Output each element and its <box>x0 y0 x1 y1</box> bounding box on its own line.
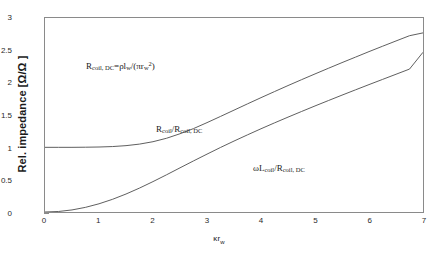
curves-svg <box>45 18 423 212</box>
x-tick-label-1: 1 <box>88 216 108 225</box>
y-tick-mark-0 <box>44 213 49 214</box>
plot-area: Rcoil, DC=ρlw/(πrw2) Rcoil/Rcoil, DC ωLc… <box>44 17 424 213</box>
reac-label-omega-l: ωL <box>253 163 264 173</box>
x-tick-label-6: 6 <box>360 216 380 225</box>
y-tick-label-6: 3 <box>0 13 12 22</box>
series-reactance-curve <box>45 52 423 212</box>
res-label-r2-sub: coil, DC <box>180 127 202 134</box>
dc-formula-pi-r: πr <box>136 61 144 71</box>
x-axis-label: κrw <box>0 234 438 245</box>
y-axis-label: Rel. impedance [Ω/Ω ] <box>16 14 28 214</box>
annotation-reactance-curve-label: ωLcoil/Rcoil, DC <box>253 163 305 173</box>
x-tick-label-3: 3 <box>197 216 217 225</box>
series-resistance-curve <box>45 33 423 147</box>
x-tick-label-0: 0 <box>34 216 54 225</box>
chart-figure: Rel. impedance [Ω/Ω ] κrw 0 0.5 1 1.5 2 … <box>0 0 438 262</box>
dc-formula-r-sub: coil, DC <box>92 64 114 71</box>
y-tick-label-1: 0.5 <box>0 176 12 185</box>
annotation-resistance-curve-label: Rcoil/Rcoil, DC <box>156 124 202 134</box>
y-tick-label-2: 1 <box>0 143 12 152</box>
y-tick-label-5: 2.5 <box>0 45 12 54</box>
y-tick-label-0: 0 <box>0 209 12 218</box>
x-tick-label-5: 5 <box>305 216 325 225</box>
annotation-dc-resistance-formula: Rcoil, DC=ρlw/(πrw2) <box>86 60 155 71</box>
reac-label-r-sub: coil, DC <box>283 166 305 173</box>
x-tick-label-7: 7 <box>414 216 434 225</box>
y-tick-label-4: 2 <box>0 78 12 87</box>
reac-label-l-sub: coil <box>264 166 274 173</box>
x-tick-label-4: 4 <box>251 216 271 225</box>
y-tick-label-3: 1.5 <box>0 111 12 120</box>
dc-formula-close: ) <box>152 61 155 71</box>
x-tick-label-2: 2 <box>143 216 163 225</box>
res-label-r1-sub: coil <box>162 127 172 134</box>
x-axis-label-sub: w <box>220 239 225 245</box>
